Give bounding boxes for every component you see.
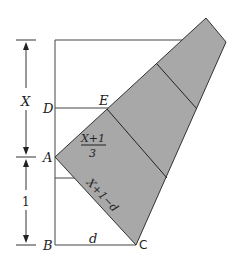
arrow-up-icon [23, 159, 29, 167]
label-D: D [42, 101, 54, 116]
geometry-diagram: X 1 D E A B C d X+1 3 X+1−d [0, 0, 241, 265]
fraction-numerator: X+1 [80, 132, 105, 145]
label-C: C [139, 238, 147, 252]
arrow-down-icon [23, 147, 29, 155]
label-B: B [42, 238, 53, 253]
fraction-denominator: 3 [89, 147, 96, 160]
arrow-up-icon [23, 42, 29, 50]
label-A: A [42, 150, 52, 165]
label-E: E [98, 93, 109, 108]
label-one: 1 [22, 195, 30, 209]
arrow-down-icon [23, 235, 29, 243]
label-d: d [89, 231, 97, 246]
label-X: X [20, 94, 31, 109]
